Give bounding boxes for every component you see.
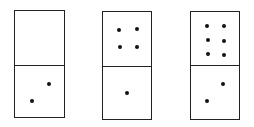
pip-dot-icon xyxy=(30,99,34,103)
domino-top-half xyxy=(103,12,151,66)
pip-dot-icon xyxy=(222,24,226,28)
pip-dot-icon xyxy=(125,91,129,95)
pip-dot-icon xyxy=(205,24,209,28)
domino-3 xyxy=(190,11,240,120)
pip-dot-icon xyxy=(135,27,139,31)
domino-1 xyxy=(14,10,65,118)
pip-dot-icon xyxy=(117,28,121,32)
domino-bottom-half xyxy=(191,65,239,119)
domino-bottom-half xyxy=(15,65,64,117)
pip-dot-icon xyxy=(222,39,226,43)
domino-top-half xyxy=(15,11,64,65)
pip-dot-icon xyxy=(221,82,225,86)
pip-dot-icon xyxy=(47,82,51,86)
pip-dot-icon xyxy=(118,45,122,49)
pip-dot-icon xyxy=(206,52,210,56)
domino-2 xyxy=(102,11,152,120)
pip-dot-icon xyxy=(206,38,210,42)
pip-dot-icon xyxy=(205,99,209,103)
pip-dot-icon xyxy=(135,45,139,49)
pip-dot-icon xyxy=(222,53,226,57)
domino-top-half xyxy=(191,12,239,65)
